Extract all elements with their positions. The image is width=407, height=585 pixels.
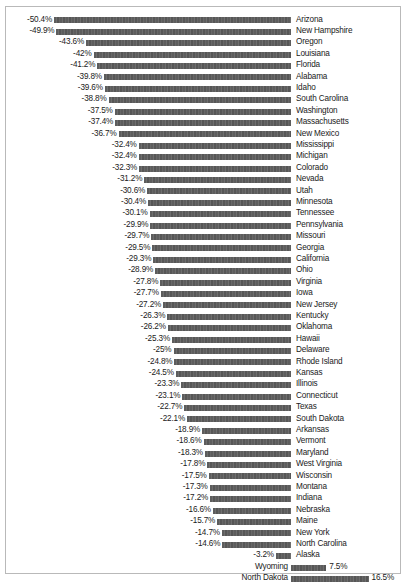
bar-missouri (151, 234, 291, 240)
bar-category-label: Texas (296, 401, 317, 412)
bar-montana (210, 485, 291, 491)
bar-value-label: -28.9% (128, 264, 153, 275)
chart-bar-row: -38.8%South Carolina (6, 95, 400, 106)
bar-new-jersey (163, 302, 291, 308)
bar-category-label: South Dakota (296, 413, 344, 424)
bar-tennessee (150, 211, 291, 217)
bar-category-label: New Mexico (296, 128, 339, 139)
bar-category-label: Virginia (296, 276, 322, 287)
bar-value-label: -37.4% (88, 116, 113, 127)
bar-value-label: -27.2% (136, 299, 161, 310)
chart-bar-row: -31.2%Nevada (6, 175, 400, 186)
bar-arkansas (202, 428, 291, 434)
chart-bar-row: -18.9%Arkansas (6, 425, 400, 436)
bar-value-label: -30.4% (121, 196, 146, 207)
chart-bar-row: -18.6%Vermont (6, 437, 400, 448)
bar-category-label: Pennsylvania (296, 219, 343, 230)
bar-nevada (144, 177, 291, 183)
bar-mississippi (139, 143, 291, 149)
bar-maine (217, 519, 291, 525)
bar-category-label: Massachusetts (296, 116, 349, 127)
bar-category-label: Michigan (296, 150, 328, 161)
bar-value-label: -31.2% (117, 173, 142, 184)
bar-north-carolina (222, 542, 291, 548)
bar-value-label: -3.2% (253, 549, 274, 560)
bar-category-label: Mississippi (296, 139, 334, 150)
bar-texas (184, 405, 291, 411)
bar-value-label: -15.7% (190, 515, 215, 526)
bar-value-label: -23.3% (154, 378, 179, 389)
bar-category-label: Georgia (296, 242, 324, 253)
bar-category-label: Oregon (296, 36, 322, 47)
bar-category-label: Kansas (296, 367, 322, 378)
bar-category-label: Missouri (296, 230, 325, 241)
chart-bar-row: 7.5%Wyoming (6, 562, 400, 573)
bar-hawaii (172, 337, 291, 343)
bar-new-hampshire (56, 29, 291, 35)
bar-value-label: -17.8% (180, 458, 205, 469)
bar-value-label: 7.5% (329, 561, 347, 572)
bar-category-label: Utah (296, 185, 313, 196)
bar-value-label: -22.7% (157, 401, 182, 412)
chart-bar-row: -14.6%North Carolina (6, 539, 400, 550)
bar-value-label: -50.4% (27, 14, 52, 25)
bar-value-label: -29.5% (125, 242, 150, 253)
bar-category-label: Hawaii (296, 333, 320, 344)
bar-illinois (181, 382, 291, 388)
bar-category-label: California (296, 253, 329, 264)
chart-bar-row: -23.3%Illinois (6, 380, 400, 391)
bar-value-label: -32.3% (112, 162, 137, 173)
bar-category-label: Kentucky (296, 310, 328, 321)
bar-michigan (139, 154, 291, 160)
bar-category-label: Louisiana (296, 48, 330, 59)
bar-value-label: -39.8% (77, 71, 102, 82)
bar-category-label: Rhode Island (296, 356, 342, 367)
chart-bar-row: -28.9%Ohio (6, 266, 400, 277)
bar-value-label: -14.6% (195, 538, 220, 549)
bar-value-label: -18.3% (178, 447, 203, 458)
chart-bar-row: -23.1%Connecticut (6, 391, 400, 402)
bar-value-label: -32.4% (112, 150, 137, 161)
chart-bar-row: -36.7%New Mexico (6, 129, 400, 140)
bar-value-label: -22.1% (160, 413, 185, 424)
chart-bar-row: 16.5%North Dakota (6, 574, 400, 585)
chart-bar-row: -27.2%New Jersey (6, 300, 400, 311)
bar-north-dakota (291, 576, 369, 582)
bar-value-label: -30.1% (122, 207, 147, 218)
bar-delaware (174, 348, 292, 354)
bar-category-label: Connecticut (296, 390, 338, 401)
bar-new-york (222, 530, 291, 536)
bar-indiana (210, 496, 291, 502)
chart-bar-row: -32.4%Mississippi (6, 140, 400, 151)
bar-category-label: North Carolina (296, 538, 347, 549)
chart-bar-row: -26.3%Kentucky (6, 311, 400, 322)
bar-west-virginia (207, 462, 291, 468)
bar-florida (97, 63, 291, 69)
bar-category-label: West Virginia (296, 458, 342, 469)
bar-value-label: -24.5% (149, 367, 174, 378)
bar-value-label: -36.7% (91, 128, 116, 139)
bar-category-label: Nevada (296, 173, 323, 184)
chart-bar-row: -24.5%Kansas (6, 368, 400, 379)
chart-bar-row: -41.2%Florida (6, 61, 400, 72)
bar-nebraska (213, 508, 291, 514)
bar-value-label: -37.5% (88, 105, 113, 116)
bar-south-dakota (187, 416, 291, 422)
bar-ohio (155, 268, 291, 274)
bar-category-label: New York (296, 527, 329, 538)
chart-bar-row: -39.8%Alabama (6, 72, 400, 83)
bar-value-label: -17.2% (183, 492, 208, 503)
bar-value-label: -27.7% (134, 287, 159, 298)
bar-category-label: Arizona (296, 14, 323, 25)
bar-category-label: New Jersey (296, 299, 337, 310)
bar-category-label: North Dakota (242, 572, 288, 583)
bar-value-label: -38.8% (82, 93, 107, 104)
bar-south-carolina (109, 97, 291, 103)
chart-bar-row: -29.7%Missouri (6, 232, 400, 243)
bar-value-label: -25% (153, 344, 172, 355)
bar-category-label: Maine (296, 515, 318, 526)
chart-bar-row: -37.4%Massachusetts (6, 118, 400, 129)
bar-category-label: Maryland (296, 447, 328, 458)
bar-value-label: -39.6% (78, 82, 103, 93)
bar-value-label: -24.8% (147, 356, 172, 367)
